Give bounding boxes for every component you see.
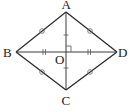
- side-DA: [66, 12, 117, 52]
- right-angle-marker: [66, 46, 71, 52]
- side-CD: [66, 52, 117, 90]
- rhombus-diagram: A B C D O: [0, 0, 130, 112]
- vertex-label-C: C: [62, 93, 71, 108]
- side-AB: [16, 12, 66, 52]
- vertex-label-D: D: [118, 45, 127, 60]
- vertex-label-A: A: [62, 0, 72, 12]
- vertex-label-B: B: [3, 45, 12, 60]
- center-label-O: O: [55, 52, 64, 67]
